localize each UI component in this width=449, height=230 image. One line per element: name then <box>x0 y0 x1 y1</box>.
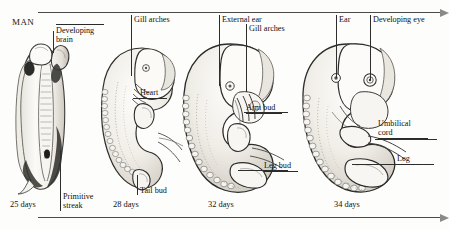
label-external-ear: External ear <box>219 15 276 24</box>
label-gill-arches-32: Gill arches <box>246 24 297 33</box>
leader-external-ear <box>219 22 220 86</box>
leader-gill-arches-32 <box>246 30 247 92</box>
label-arm-bud: Arm bud <box>246 103 282 114</box>
label-developing-eye: Developing eye <box>370 15 435 24</box>
label-tail-bud: Tail bud <box>137 186 176 195</box>
label-primitive-streak: Primitive streak <box>60 192 105 211</box>
right-arrow-icon <box>440 214 449 222</box>
stage-age-28-days: 28 days <box>113 200 139 209</box>
label-leg: Leg <box>397 154 419 165</box>
leader-developing-eye <box>370 22 371 80</box>
embryo-illustration-25-days <box>12 30 92 195</box>
top-rule <box>38 12 441 13</box>
embryo-illustration-32-days <box>178 36 288 196</box>
leader-ear <box>336 22 337 78</box>
right-arrow-icon <box>440 9 449 17</box>
label-leg-bud: Leg bud <box>264 161 298 172</box>
label-ear: Ear <box>336 15 359 24</box>
embryo-development-figure: MAN <box>0 0 449 230</box>
leader-leg <box>352 164 434 165</box>
leader-gill-arches-28 <box>131 22 132 76</box>
leader-primitive-streak <box>60 150 61 192</box>
leader-developing-brain <box>53 31 54 53</box>
label-umbilical-cord: Umbilical cord <box>378 119 428 139</box>
label-gill-arches-28: Gill arches <box>131 15 182 24</box>
embryo-illustration-28-days <box>96 38 186 193</box>
figure-heading: MAN <box>12 17 34 27</box>
stage-age-34-days: 34 days <box>334 200 360 209</box>
label-heart: Heart <box>140 88 166 99</box>
stage-age-25-days: 25 days <box>10 200 36 209</box>
embryo-illustration-34-days <box>298 36 408 196</box>
bottom-rule <box>38 217 441 218</box>
stage-age-32-days: 32 days <box>208 200 234 209</box>
